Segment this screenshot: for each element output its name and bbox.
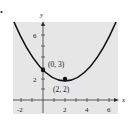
x-tick-label: 4 [85, 106, 89, 114]
y-tick-label: 6 [33, 32, 37, 40]
x-tick-label: 2 [63, 106, 67, 114]
point-0-3 [41, 68, 45, 72]
point-label-2-2: (2, 2) [53, 85, 70, 94]
x-axis-label: x [121, 96, 126, 104]
parabola-chart: -2 2 4 6 x 2 6 y (0, 3) (2, 2) [0, 0, 131, 122]
point-label-0-3: (0, 3) [48, 60, 65, 69]
y-tick-label: 2 [33, 76, 37, 84]
x-tick-label: -2 [17, 106, 23, 114]
y-axis-label: y [39, 11, 44, 19]
point-2-2 [63, 77, 67, 81]
x-tick-label: 6 [107, 106, 111, 114]
